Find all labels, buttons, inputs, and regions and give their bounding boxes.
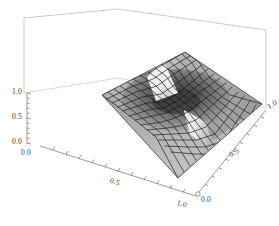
z-axis-tick-label-1: 1.0 bbox=[12, 88, 22, 96]
surface-plot-figure: 1.0 0.5 0.0 0.0 0.5 1.0 0.0 0.5 1.0 bbox=[0, 0, 279, 226]
surface-mesh bbox=[102, 52, 262, 178]
origin-corner-marker bbox=[196, 192, 200, 196]
x-axis-tick-label-0: 0.0 bbox=[21, 149, 31, 157]
z-axis-tick-label-0_5: 0.5 bbox=[12, 113, 22, 121]
z-axis bbox=[27, 93, 31, 144]
x-axis-tick-label-1: 1.0 bbox=[176, 199, 188, 209]
z-axis-tick-label-0: 0.0 bbox=[12, 138, 22, 146]
plot-canvas bbox=[0, 0, 279, 226]
x-axis-tick-label-0_5: 0.5 bbox=[109, 177, 121, 187]
y-axis-tick-label-0: 0.0 bbox=[201, 196, 211, 204]
